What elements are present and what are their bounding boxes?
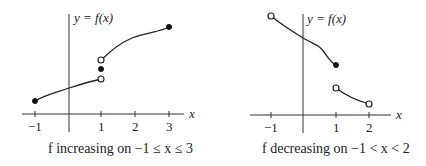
- right-open-point-end: [366, 101, 372, 107]
- left-tick-label-neg1: −1: [28, 119, 42, 134]
- left-caption: f increasing on −1 ≤ x ≤ 3: [48, 141, 193, 156]
- figure-canvas: −1 1 2 3 x y = f(x) f increasing on −1 ≤…: [0, 0, 426, 166]
- right-function-label: y = f(x): [305, 11, 346, 26]
- right-caption: f decreasing on −1 < x < 2: [262, 141, 410, 156]
- right-open-point-start: [268, 13, 274, 19]
- left-tick-label-2: 2: [132, 119, 139, 134]
- left-curve-segment-2: [101, 27, 169, 60]
- left-closed-point-end: [167, 25, 172, 30]
- left-curve-segment-1: [35, 79, 101, 101]
- right-curve-segment-2: [336, 88, 369, 104]
- left-function-label: y = f(x): [72, 10, 113, 25]
- left-x-axis-label: x: [188, 106, 195, 121]
- left-open-point-upper: [98, 57, 104, 63]
- left-closed-point-value: [99, 67, 104, 72]
- right-tick-label-1: 1: [333, 120, 340, 135]
- left-graph: −1 1 2 3 x y = f(x) f increasing on −1 ≤…: [22, 10, 195, 156]
- right-open-point-lower: [333, 85, 339, 91]
- right-tick-label-2: 2: [366, 120, 373, 135]
- right-tick-label-neg1: −1: [264, 120, 278, 135]
- left-open-point-lower: [98, 76, 104, 82]
- right-graph: −1 1 2 x y = f(x) f decreasing on −1 < x…: [250, 11, 410, 156]
- left-tick-label-1: 1: [98, 119, 105, 134]
- left-closed-point-start: [33, 99, 38, 104]
- left-tick-label-3: 3: [166, 119, 173, 134]
- right-x-axis-label: x: [395, 107, 402, 122]
- right-closed-point: [334, 63, 339, 68]
